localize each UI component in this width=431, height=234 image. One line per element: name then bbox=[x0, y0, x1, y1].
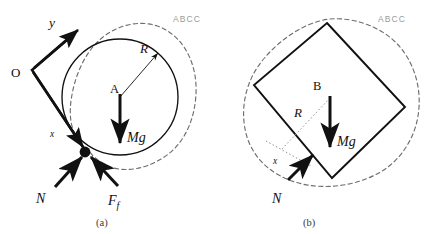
panel-a-radius-arrow bbox=[120, 53, 158, 97]
panel-a-axis-y-arrow bbox=[34, 30, 78, 68]
panel-b-normal-label: N bbox=[271, 191, 282, 206]
panel-a-friction-label-main: F bbox=[107, 193, 117, 208]
panel-b-watermark: ABCC bbox=[378, 14, 406, 24]
panel-a-normal-arrow bbox=[55, 157, 82, 187]
panel-a-watermark: ABCC bbox=[173, 14, 201, 24]
panel-b-normal-arrow bbox=[288, 155, 313, 180]
panel-a-axes-wedge bbox=[32, 34, 85, 150]
panel-b-radius-label: R bbox=[293, 105, 302, 120]
panel-b-body-label: B bbox=[313, 79, 321, 93]
figure-canvas: y O x R A Mg N Ff ABCC (a) bbox=[0, 0, 431, 234]
physics-figure-root: y O x R A Mg N Ff ABCC (a) bbox=[0, 0, 431, 234]
panel-a-caption: (a) bbox=[96, 217, 108, 229]
panel-a-axis-x-label: x bbox=[49, 129, 55, 139]
panel-a-origin-label: O bbox=[11, 65, 20, 80]
panel-b-radius-line bbox=[281, 98, 330, 150]
panel-a-radius-label: R bbox=[139, 41, 148, 56]
panel-a-group: y O x R A Mg N Ff ABCC (a) bbox=[11, 14, 201, 229]
panel-a-normal-label: N bbox=[35, 191, 46, 206]
panel-b-group: B R Mg x N ABCC (b) bbox=[244, 14, 420, 229]
panel-a-friction-label: Ff bbox=[107, 193, 121, 211]
panel-a-contact-point-dot bbox=[80, 147, 91, 158]
panel-b-axis-x-label: x bbox=[272, 156, 278, 166]
panel-a-body-label: A bbox=[110, 82, 119, 96]
panel-b-weight-label: Mg bbox=[336, 134, 356, 149]
panel-a-friction-label-subscript: f bbox=[117, 200, 121, 211]
panel-b-caption: (b) bbox=[303, 217, 316, 229]
panel-a-weight-label: Mg bbox=[126, 130, 146, 145]
panel-a-axis-x-arrow bbox=[33, 72, 83, 147]
panel-a-deformed-outline bbox=[70, 23, 196, 169]
panel-a-axis-y-label: y bbox=[47, 15, 55, 30]
panel-a-friction-arrow bbox=[91, 157, 118, 186]
